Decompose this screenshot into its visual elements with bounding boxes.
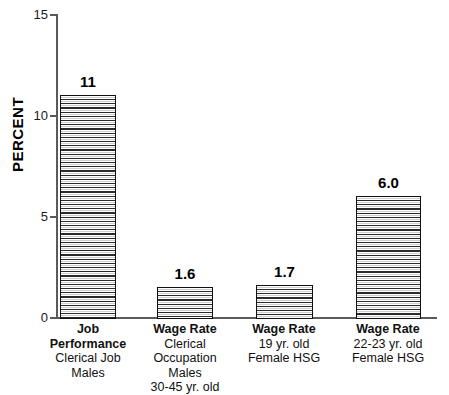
category-label-wage-rate-19yr-female: Wage Rate 19 yr. old Female HSG (234, 322, 334, 366)
category-label-line-plain-3: Males (135, 366, 235, 381)
y-tick-mark-5 (50, 216, 57, 218)
category-label-line-plain-2: Occupation (135, 351, 235, 366)
category-label-line-plain-2: Female HSG (338, 351, 438, 366)
category-label-line-plain-1: Clerical (135, 337, 235, 352)
category-label-line-bold-1: Wage Rate (338, 322, 438, 337)
y-axis-title: PERCENT (9, 90, 26, 180)
y-tick-label-5: 5 (22, 210, 48, 223)
y-tick-mark-15 (50, 14, 57, 16)
category-label-line-plain-2: Males (38, 366, 138, 381)
category-label-line-plain-1: Clerical Job (38, 351, 138, 366)
category-label-line-bold-1: Wage Rate (135, 322, 235, 337)
category-label-line-plain-4: 30-45 yr. old (135, 380, 235, 395)
bar-wage-rate-22-23yr-female[interactable] (356, 196, 421, 319)
category-label-line-plain-1: 19 yr. old (234, 337, 334, 352)
y-tick-mark-10 (50, 115, 57, 117)
bar-wage-rate-19yr-female[interactable] (256, 285, 313, 319)
category-label-line-plain-1: 22-23 yr. old (338, 337, 438, 352)
bar-job-performance[interactable] (60, 95, 116, 319)
category-label-line-bold-2: Performance (38, 337, 138, 352)
category-label-line-bold-1: Wage Rate (234, 322, 334, 337)
bar-wage-rate-clerical-males[interactable] (157, 287, 213, 319)
category-label-line-bold-1: Job (38, 322, 138, 337)
bar-value-label-2: 1.6 (157, 266, 213, 281)
bar-value-label-3: 1.7 (256, 264, 313, 279)
bar-value-label-1: 11 (60, 74, 116, 89)
y-tick-label-10: 10 (22, 109, 48, 122)
category-label-wage-rate-22-23yr-female: Wage Rate 22-23 yr. old Female HSG (338, 322, 438, 366)
y-tick-mark-0 (50, 317, 57, 319)
category-label-wage-rate-clerical-males: Wage Rate Clerical Occupation Males 30-4… (135, 322, 235, 395)
bar-value-label-4: 6.0 (356, 175, 421, 190)
y-tick-label-15: 15 (22, 8, 48, 21)
category-label-line-plain-2: Female HSG (234, 351, 334, 366)
category-label-job-performance: Job Performance Clerical Job Males (38, 322, 138, 380)
y-axis-line (56, 14, 58, 319)
